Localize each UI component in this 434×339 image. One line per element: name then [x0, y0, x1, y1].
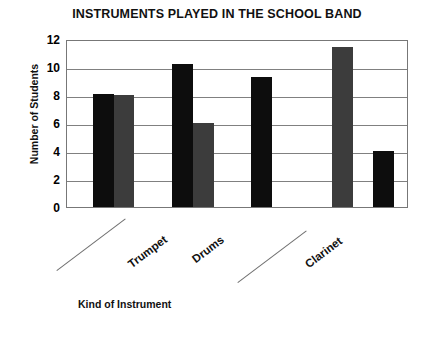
y-tick-label: 8	[18, 89, 60, 103]
y-tick-label: 0	[18, 201, 60, 215]
bar	[373, 151, 394, 207]
x-category-label: Clarinet	[303, 235, 344, 270]
chart-title: INSTRUMENTS PLAYED IN THE SCHOOL BAND	[0, 7, 434, 21]
x-category-label: Drums	[190, 233, 226, 265]
x-axis-title: Kind of Instrument	[78, 298, 171, 310]
gridline	[67, 69, 407, 70]
bar	[172, 64, 193, 207]
bar-chart: INSTRUMENTS PLAYED IN THE SCHOOL BAND Nu…	[0, 0, 434, 339]
y-tick-label: 2	[18, 173, 60, 187]
bar	[332, 47, 353, 207]
x-category-label: Trumpet	[126, 233, 169, 270]
bar	[251, 77, 272, 207]
category-leader-line	[56, 218, 125, 271]
y-tick-label: 6	[18, 117, 60, 131]
y-tick-label: 12	[18, 33, 60, 47]
y-tick-label: 10	[18, 61, 60, 75]
y-tick-label: 4	[18, 145, 60, 159]
bar	[114, 95, 135, 207]
bar	[193, 123, 214, 207]
plot-area	[66, 40, 408, 208]
category-leader-line	[237, 230, 306, 283]
bar	[93, 94, 114, 207]
